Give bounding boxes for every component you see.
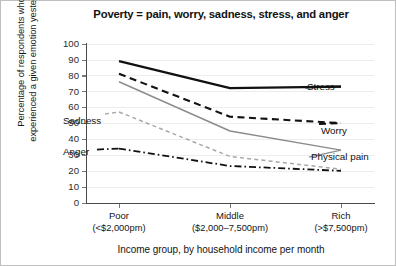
series-label-stress: Stress (307, 81, 335, 92)
series-label-sadness: Sadness (63, 115, 101, 126)
series-label-physical-pain: Physical pain (311, 151, 369, 162)
chart-figure: Poverty = pain, worry, sadness, stress, … (0, 0, 396, 266)
leader-line-sadness (105, 112, 119, 114)
leader-line-anger (97, 149, 119, 150)
series-line-anger (119, 149, 341, 171)
series-label-worry: Worry (321, 125, 347, 136)
series-label-anger: Anger (63, 146, 89, 157)
